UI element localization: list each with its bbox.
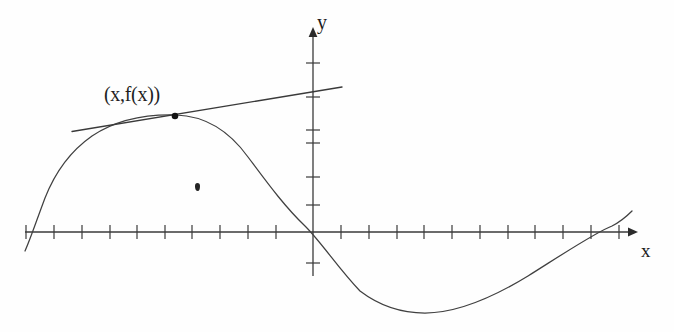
tangency-point-dot [172, 113, 179, 120]
y-axis-label: y [317, 11, 327, 34]
function-curve [25, 115, 632, 313]
math-diagram-figure: y x (x,f(x)) [0, 0, 674, 332]
plot-canvas [0, 0, 674, 332]
y-axis-group [306, 27, 320, 276]
x-axis-label: x [641, 240, 651, 262]
x-axis-arrowhead [628, 228, 638, 237]
x-axis-group [25, 225, 638, 239]
tangent-point-label: (x,f(x)) [104, 83, 160, 106]
